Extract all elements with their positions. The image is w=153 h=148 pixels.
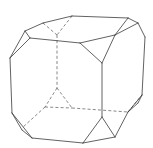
visible-edge xyxy=(128,18,138,23)
hidden-edge xyxy=(45,88,57,107)
visible-edge xyxy=(25,23,43,31)
visible-edge xyxy=(102,117,115,137)
visible-edge xyxy=(72,16,128,18)
visible-edge xyxy=(80,35,115,43)
visible-edge xyxy=(128,103,138,112)
crystal-diagram xyxy=(0,0,153,148)
hidden-edge xyxy=(45,107,72,108)
visible-edge xyxy=(10,58,12,113)
hidden-edges xyxy=(22,16,142,128)
visible-edge xyxy=(12,113,32,138)
visible-edges xyxy=(10,16,145,143)
visible-edge xyxy=(30,38,80,43)
truncated-cube-drawing xyxy=(0,0,153,148)
visible-edge xyxy=(10,38,30,58)
visible-edge xyxy=(83,137,115,143)
visible-edge xyxy=(115,18,128,35)
hidden-edge xyxy=(22,107,45,128)
visible-edge xyxy=(12,113,22,130)
visible-edge xyxy=(32,138,83,143)
visible-edge xyxy=(115,112,128,137)
visible-edge xyxy=(80,43,102,63)
hidden-edge xyxy=(43,23,57,35)
hidden-edge xyxy=(57,88,72,108)
visible-edge xyxy=(10,31,25,58)
visible-edge xyxy=(102,35,115,63)
visible-edge xyxy=(128,95,142,112)
visible-edge xyxy=(83,117,102,143)
visible-edge xyxy=(138,23,145,37)
visible-edge xyxy=(25,31,30,38)
visible-edge xyxy=(142,37,145,95)
hidden-edge xyxy=(72,108,128,112)
visible-edge xyxy=(115,23,138,35)
